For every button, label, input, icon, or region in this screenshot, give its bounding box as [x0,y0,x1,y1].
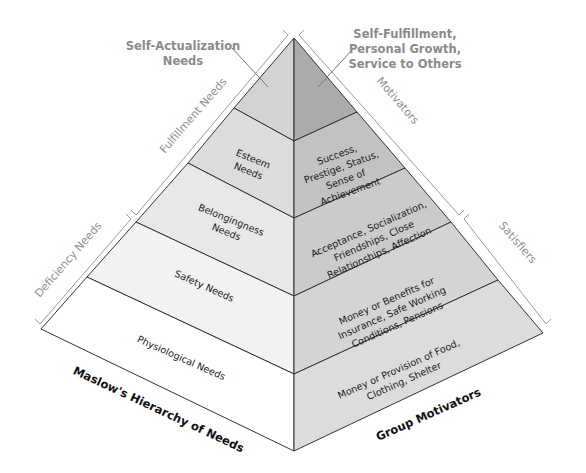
svg-text:Needs: Needs [163,54,203,68]
label-satisfiers: Satisfiers [496,219,539,266]
callout-self-fulfillment: Self-Fulfillment, Personal Growth, Servi… [349,27,462,71]
maslow-pyramid-diagram: Fulfillment Needs Deficiency Needs Motiv… [0,0,586,473]
svg-text:Service to Others: Service to Others [349,57,462,71]
label-motivators: Motivators [374,74,422,127]
svg-text:Self-Actualization: Self-Actualization [126,39,241,53]
callout-line-self-actualization [232,48,268,87]
svg-text:Self-Fulfillment,: Self-Fulfillment, [353,27,456,41]
callout-line-self-fulfillment [318,50,352,87]
callout-self-actualization: Self-Actualization Needs [126,39,241,68]
svg-text:Personal Growth,: Personal Growth, [349,42,461,56]
